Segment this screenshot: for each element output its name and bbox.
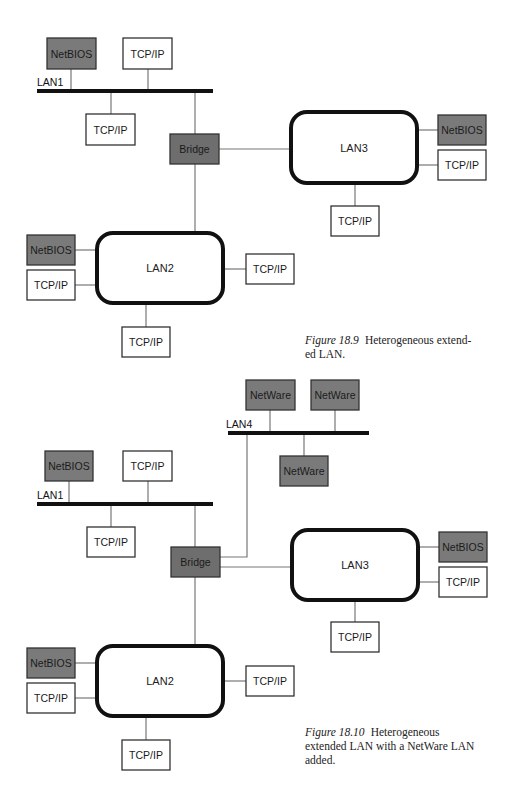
figure-18-9-caption: Figure 18.9Heterogeneous extend- ed LAN.: [305, 333, 505, 361]
tcpip-lan2-bottom-node: TCP/IP: [122, 740, 170, 770]
lan2-label: LAN2: [146, 675, 174, 687]
tcpip-lan2-right-node: TCP/IP: [246, 666, 294, 696]
tcpip-lan3-right-label: TCP/IP: [446, 576, 480, 588]
netware-1-node: NetWare: [246, 380, 295, 410]
netbios-lan2-label: NetBIOS: [30, 657, 71, 669]
tcpip-lan3-right-label: TCP/IP: [445, 159, 479, 171]
netbios-lan1-node: NetBIOS: [47, 38, 96, 69]
netbios-lan2-node: NetBIOS: [27, 235, 75, 265]
tcpip-lan1-top-label: TCP/IP: [131, 48, 165, 60]
netbios-lan1-node: NetBIOS: [45, 451, 93, 481]
connector-line: [220, 433, 247, 557]
netbios-lan1-label: NetBIOS: [48, 460, 89, 472]
tcpip-lan2-right-label: TCP/IP: [253, 675, 287, 687]
caption-line: added.: [305, 754, 335, 766]
netware-2-label: NetWare: [314, 389, 355, 401]
netware-3-label: NetWare: [283, 465, 324, 477]
netbios-lan3-label: NetBIOS: [441, 124, 482, 136]
caption-line: Heterogeneous extend-: [365, 334, 471, 346]
netbios-lan2-label: NetBIOS: [30, 244, 71, 256]
lan1-bus-label: LAN1: [37, 489, 63, 501]
tcpip-lan2-left-label: TCP/IP: [34, 279, 68, 291]
netbios-lan3-label: NetBIOS: [442, 541, 483, 553]
tcpip-lan1-top-label: TCP/IP: [131, 460, 165, 472]
tcpip-lan2-bottom-label: TCP/IP: [129, 336, 163, 348]
tcpip-lan1-top-node: TCP/IP: [123, 38, 172, 69]
tcpip-lan2-left-node: TCP/IP: [27, 270, 75, 300]
tcpip-lan2-left-label: TCP/IP: [34, 692, 68, 704]
caption-line: ed LAN.: [305, 348, 345, 360]
netbios-lan3-node: NetBIOS: [438, 115, 486, 145]
tcpip-lan2-bottom-label: TCP/IP: [129, 749, 163, 761]
netbios-lan2-node: NetBIOS: [27, 648, 75, 678]
tcpip-lan3-bottom-label: TCP/IP: [338, 215, 372, 227]
tcpip-lan1-bottom-node: TCP/IP: [87, 527, 135, 557]
bridge-node: Bridge: [170, 134, 219, 164]
caption-line: Heterogeneous: [371, 726, 440, 738]
lan3-label: LAN3: [340, 142, 368, 154]
tcpip-lan3-right-node: TCP/IP: [439, 567, 487, 597]
lan1-bus-label: LAN1: [37, 76, 63, 88]
tcpip-lan3-right-node: TCP/IP: [438, 150, 486, 180]
tcpip-lan1-bottom-node: TCP/IP: [86, 114, 135, 145]
caption-line: extended LAN with a NetWare LAN: [305, 740, 474, 752]
tcpip-lan3-bottom-node: TCP/IP: [331, 622, 379, 652]
tcpip-lan1-bottom-label: TCP/IP: [94, 124, 128, 136]
netware-3-node: NetWare: [280, 456, 328, 486]
tcpip-lan2-bottom-node: TCP/IP: [122, 327, 170, 357]
diagram-canvas: LAN1LAN3LAN2NetBIOSTCP/IPTCP/IPBridgeNet…: [0, 0, 518, 811]
lan2-label: LAN2: [146, 262, 174, 274]
netware-2-node: NetWare: [311, 380, 359, 410]
bridge-node: Bridge: [171, 547, 220, 577]
lan4-bus-label: LAN4: [226, 418, 252, 430]
figure-18-9-diagram: LAN1LAN3LAN2NetBIOSTCP/IPTCP/IPBridgeNet…: [27, 38, 486, 357]
bridge-label: Bridge: [179, 143, 210, 155]
tcpip-lan1-top-node: TCP/IP: [123, 451, 172, 481]
tcpip-lan2-left-node: TCP/IP: [27, 683, 75, 713]
figure-18-10-diagram: LAN4LAN1LAN3LAN2NetWareNetWareNetWareNet…: [27, 380, 487, 770]
tcpip-lan3-bottom-node: TCP/IP: [331, 206, 379, 236]
tcpip-lan1-bottom-label: TCP/IP: [94, 536, 128, 548]
bridge-label: Bridge: [180, 556, 211, 568]
figure-18-10-caption: Figure 18.10Heterogeneous extended LAN w…: [305, 725, 510, 767]
netbios-lan1-label: NetBIOS: [51, 48, 92, 60]
network-diagram-svg: LAN1LAN3LAN2NetBIOSTCP/IPTCP/IPBridgeNet…: [0, 0, 518, 811]
lan3-label: LAN3: [341, 559, 369, 571]
netbios-lan3-node: NetBIOS: [439, 532, 487, 562]
netware-1-label: NetWare: [250, 389, 291, 401]
tcpip-lan2-right-node: TCP/IP: [246, 254, 294, 284]
tcpip-lan3-bottom-label: TCP/IP: [338, 631, 372, 643]
figure-number: Figure 18.10: [305, 726, 365, 738]
figure-number: Figure 18.9: [305, 334, 359, 346]
tcpip-lan2-right-label: TCP/IP: [253, 263, 287, 275]
